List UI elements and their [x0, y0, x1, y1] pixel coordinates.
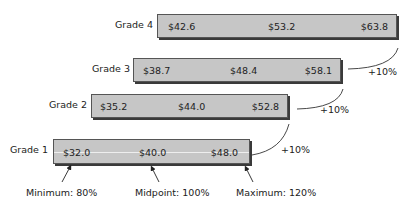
minimum-annotation: Minimum: 80%: [26, 187, 97, 198]
connectors: [0, 0, 413, 208]
midpoint-annotation: Midpoint: 100%: [135, 187, 209, 198]
maximum-annotation: Maximum: 120%: [236, 187, 316, 198]
